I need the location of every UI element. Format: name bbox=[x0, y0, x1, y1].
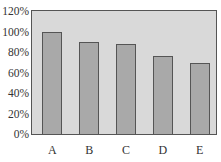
x-tick-label: E bbox=[190, 143, 210, 158]
y-tick-label: 60% bbox=[8, 67, 29, 79]
y-tick-label: 40% bbox=[8, 87, 29, 99]
x-tick-label: C bbox=[116, 143, 136, 158]
x-tick-label: A bbox=[42, 143, 62, 158]
y-tick-label: 120% bbox=[2, 5, 29, 17]
bar-chart: 0%20%40%60%80%100%120% ABCDE bbox=[0, 0, 221, 162]
x-tick-label: B bbox=[79, 143, 99, 158]
y-tick-label: 20% bbox=[8, 108, 29, 120]
bar-b bbox=[79, 42, 99, 134]
plot-area bbox=[31, 10, 217, 135]
bar-a bbox=[42, 32, 62, 135]
bar-e bbox=[190, 63, 210, 134]
y-tick-label: 100% bbox=[2, 26, 29, 38]
bar-d bbox=[153, 56, 173, 134]
y-tick-label: 0% bbox=[14, 128, 29, 140]
y-tick-label: 80% bbox=[8, 46, 29, 58]
x-tick-label: D bbox=[153, 143, 173, 158]
bar-c bbox=[116, 44, 136, 134]
